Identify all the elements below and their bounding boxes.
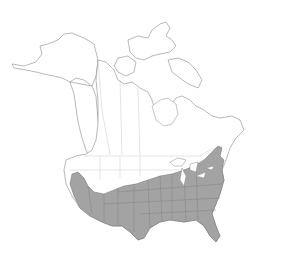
arctic-islands — [128, 22, 176, 60]
range-map — [0, 0, 281, 266]
alaska-landmass — [12, 33, 98, 86]
victoria-island — [114, 56, 136, 76]
baffin-island — [168, 58, 202, 88]
